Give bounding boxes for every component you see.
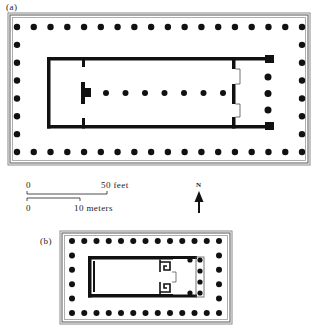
column — [299, 131, 305, 137]
column — [215, 149, 221, 155]
column — [216, 281, 222, 287]
column — [118, 310, 124, 316]
plan-b-mid-frame — [62, 233, 230, 322]
scale-bars — [27, 191, 107, 201]
column — [299, 95, 305, 101]
column — [198, 24, 204, 30]
column — [197, 279, 202, 284]
column — [69, 281, 75, 287]
column — [299, 42, 305, 48]
column — [216, 296, 222, 302]
plan-a-interior-columns — [103, 90, 226, 96]
plan-b-porch-columns — [187, 257, 202, 295]
column — [216, 267, 222, 273]
column — [14, 149, 20, 155]
column — [299, 77, 305, 83]
plan-a-outer-frame — [8, 13, 310, 165]
column — [142, 90, 148, 96]
column — [265, 107, 272, 114]
column — [167, 238, 173, 244]
column — [181, 149, 187, 155]
column — [162, 90, 168, 96]
column — [14, 60, 20, 66]
column — [123, 90, 129, 96]
plan-a-porch-columns — [265, 74, 272, 114]
column — [216, 310, 222, 316]
plan-b-cella — [88, 256, 204, 298]
column — [187, 257, 192, 262]
column — [131, 24, 137, 30]
column — [94, 238, 100, 244]
column — [47, 149, 53, 155]
column — [98, 24, 104, 30]
column — [179, 310, 185, 316]
column — [167, 310, 173, 316]
column — [14, 77, 20, 83]
column — [187, 290, 192, 295]
column — [265, 74, 272, 81]
column — [249, 24, 255, 30]
column — [201, 90, 207, 96]
column — [64, 149, 70, 155]
column — [148, 149, 154, 155]
plan-a — [8, 13, 310, 165]
column — [179, 238, 185, 244]
column — [130, 310, 136, 316]
column — [31, 149, 37, 155]
column — [204, 310, 210, 316]
column — [98, 149, 104, 155]
scale-bar-feet — [27, 191, 107, 194]
plan-b — [60, 231, 232, 324]
column — [216, 252, 222, 258]
column — [249, 149, 255, 155]
column — [155, 310, 161, 316]
column — [69, 310, 75, 316]
column — [265, 90, 272, 97]
column — [282, 24, 288, 30]
column — [197, 268, 202, 273]
column — [14, 95, 20, 101]
column — [81, 149, 87, 155]
column — [106, 238, 112, 244]
column — [81, 310, 87, 316]
plan-a-mid-frame — [10, 15, 308, 163]
column — [14, 113, 20, 119]
column — [148, 24, 154, 30]
column — [69, 296, 75, 302]
column — [14, 42, 20, 48]
column — [198, 149, 204, 155]
column — [106, 310, 112, 316]
column — [14, 24, 20, 30]
column — [94, 310, 100, 316]
column — [103, 90, 109, 96]
column — [81, 238, 87, 244]
column — [216, 238, 222, 244]
column — [155, 238, 161, 244]
column — [181, 90, 187, 96]
column — [114, 149, 120, 155]
column — [282, 149, 288, 155]
column — [114, 24, 120, 30]
column — [130, 238, 136, 244]
column — [220, 90, 226, 96]
column — [215, 24, 221, 30]
column — [181, 24, 187, 30]
column — [69, 238, 75, 244]
column — [14, 131, 20, 137]
plan-a-inner-frame — [13, 18, 306, 161]
column — [232, 24, 238, 30]
column — [232, 149, 238, 155]
column — [165, 149, 171, 155]
column — [265, 149, 271, 155]
column — [192, 310, 198, 316]
column — [192, 238, 198, 244]
column — [143, 310, 149, 316]
column — [69, 252, 75, 258]
column — [299, 113, 305, 119]
column — [131, 149, 137, 155]
column — [118, 238, 124, 244]
north-arrow-icon — [195, 191, 204, 213]
column — [299, 149, 305, 155]
column — [197, 290, 202, 295]
column — [47, 24, 53, 30]
